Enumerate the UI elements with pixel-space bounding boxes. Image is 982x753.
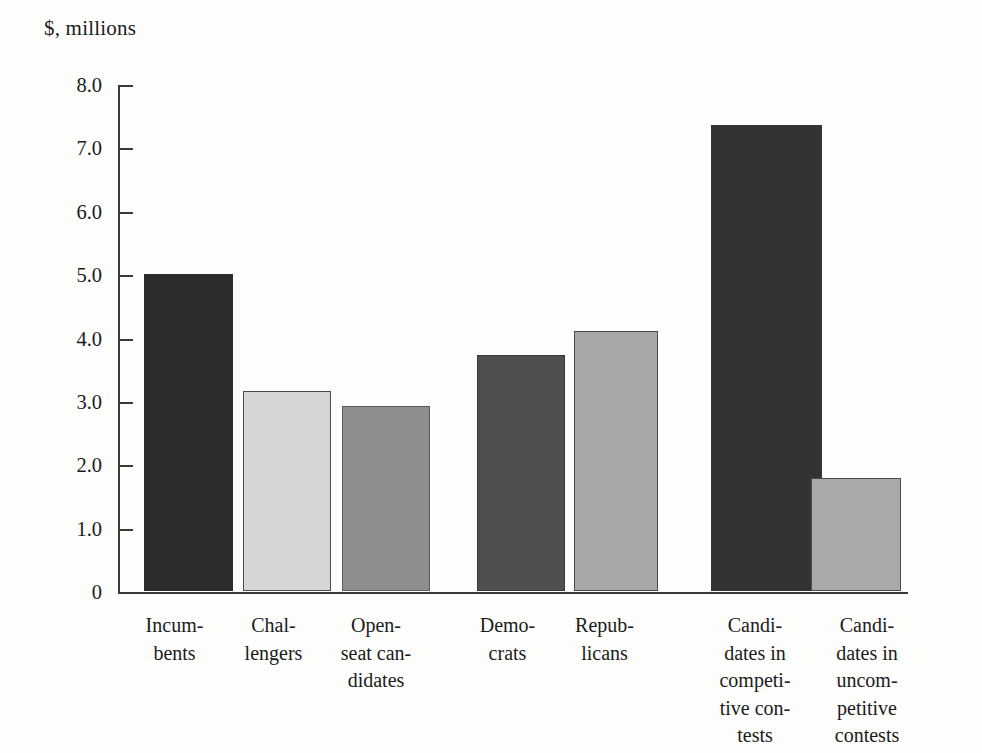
bar-candidates-in-uncompetitive-contests [811, 478, 901, 591]
category-label-candidates-in-uncompetitive-contests: Candi- dates in uncom- petitive contests [812, 612, 922, 750]
y-tick-mark [120, 592, 133, 594]
category-label-text: Incum- bents [122, 612, 227, 667]
y-tick-mark [120, 529, 133, 531]
plot-area: 8.07.06.05.04.03.02.01.00 [118, 85, 908, 593]
y-tick-mark [120, 339, 133, 341]
y-tick-label: 2.0 [76, 454, 102, 477]
y-tick-mark [120, 85, 133, 87]
category-label-open-seat-candidates: Open- seat can- didates [316, 612, 436, 695]
chart-axis-title: $, millions [44, 16, 136, 41]
bar-incumbents [144, 274, 233, 591]
bar-open-seat-candidates [342, 406, 430, 591]
y-tick-label: 7.0 [76, 137, 102, 160]
category-label-republicans: Repub- licans [552, 612, 657, 667]
category-label-challengers: Chal- lengers [221, 612, 326, 667]
category-label-candidates-in-competitive-contests: Candi- dates in competi- tive con- tests [695, 612, 815, 750]
y-tick-mark [120, 402, 133, 404]
y-tick-mark [120, 275, 133, 277]
category-label-text: Demo- crats [455, 612, 560, 667]
category-label-text: Candi- dates in uncom- petitive contests [812, 612, 922, 750]
category-label-democrats: Demo- crats [455, 612, 560, 667]
category-label-text: Chal- lengers [221, 612, 326, 667]
y-tick-label: 3.0 [76, 390, 102, 413]
bar-chart-figure: $, millions 8.07.06.05.04.03.02.01.00 In… [0, 0, 982, 753]
y-tick-label: 4.0 [76, 327, 102, 350]
x-axis-line [118, 592, 908, 594]
category-label-incumbents: Incum- bents [122, 612, 227, 667]
bar-challengers [243, 391, 331, 591]
y-tick-mark [120, 465, 133, 467]
bar-republicans [574, 331, 658, 591]
y-tick-label: 0 [92, 581, 102, 604]
bar-candidates-in-competitive-contests [711, 125, 822, 591]
category-label-text: Repub- licans [552, 612, 657, 667]
y-tick-label: 8.0 [76, 74, 102, 97]
y-tick-label: 5.0 [76, 264, 102, 287]
bar-democrats [477, 355, 565, 591]
category-label-text: Candi- dates in competi- tive con- tests [695, 612, 815, 750]
y-tick-label: 6.0 [76, 200, 102, 223]
y-tick-mark [120, 148, 133, 150]
y-tick-label: 1.0 [76, 517, 102, 540]
category-label-text: Open- seat can- didates [316, 612, 436, 695]
y-tick-mark [120, 212, 133, 214]
